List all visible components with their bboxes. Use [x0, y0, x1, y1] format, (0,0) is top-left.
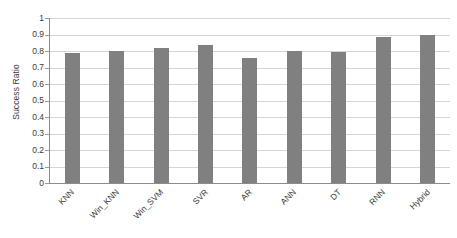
bar-rnn[interactable] [376, 37, 391, 183]
x-axis-tick-label: AR [239, 187, 254, 202]
bar-win_knn[interactable] [109, 51, 124, 183]
x-axis-tick-label: KNN [57, 187, 77, 207]
x-axis-tick-label: DT [328, 187, 343, 202]
bar-slot [94, 18, 138, 183]
x-axis-tick-label: SVR [190, 187, 209, 206]
y-axis-tick-label: 1 [20, 13, 44, 24]
x-label-slot: Win_KNN [93, 184, 137, 238]
bar-slot [406, 18, 450, 183]
bar-chart-figure: Success Ratio 10.90.80.70.60.50.40.30.20… [0, 0, 457, 238]
bar-slot [361, 18, 405, 183]
bar-slot [228, 18, 272, 183]
bar-slot [183, 18, 227, 183]
y-axis-tick-label: 0.1 [20, 161, 44, 172]
bar-ann[interactable] [287, 51, 302, 183]
bar-dt[interactable] [331, 52, 346, 183]
x-axis-tick-labels: KNNWin_KNNWin_SVMSVRARANNDTRNNHybrid [49, 184, 449, 238]
x-axis-tick-label: ANN [279, 187, 299, 207]
bar-ar[interactable] [242, 58, 257, 183]
bar-win_svm[interactable] [154, 48, 169, 183]
y-axis-tick-label: 0.5 [20, 95, 44, 106]
x-label-slot: Win_SVM [138, 184, 182, 238]
y-axis-tick-label: 0.3 [20, 128, 44, 139]
plot-area [49, 18, 450, 184]
y-axis-tick-label: 0.8 [20, 46, 44, 57]
y-axis-tick-label: 0.2 [20, 145, 44, 156]
y-axis-tick-label: 0.7 [20, 62, 44, 73]
y-axis-tick-label: 0.4 [20, 112, 44, 123]
x-label-slot: KNN [49, 184, 93, 238]
x-label-slot: AR [227, 184, 271, 238]
bar-svr[interactable] [198, 45, 213, 183]
bar-slot [317, 18, 361, 183]
bar-slot [50, 18, 94, 183]
bar-slot [272, 18, 316, 183]
y-axis-tick-labels: 10.90.80.70.60.50.40.30.20.10 [20, 12, 44, 189]
x-label-slot: ANN [271, 184, 315, 238]
x-axis-tick-label: RNN [367, 187, 387, 207]
bar-slot [139, 18, 183, 183]
bars-layer [50, 18, 450, 183]
x-axis-tick-label: Hybrid [407, 187, 431, 211]
y-axis-tick-label: 0.6 [20, 79, 44, 90]
x-label-slot: SVR [182, 184, 226, 238]
x-label-slot: RNN [360, 184, 404, 238]
bar-hybrid[interactable] [420, 35, 435, 183]
x-label-slot: Hybrid [405, 184, 449, 238]
x-label-slot: DT [316, 184, 360, 238]
bar-knn[interactable] [65, 53, 80, 183]
y-axis-tick-label: 0.9 [20, 29, 44, 40]
y-axis-tick-label: 0 [20, 178, 44, 189]
